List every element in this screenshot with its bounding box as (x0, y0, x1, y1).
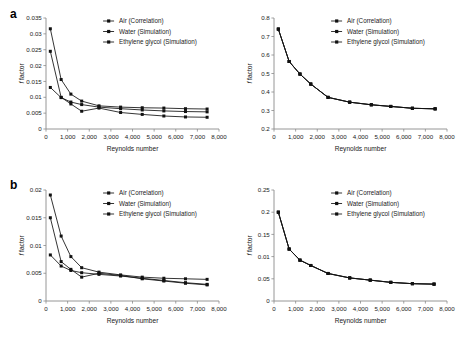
data-point (80, 266, 83, 269)
svg-text:8,000: 8,000 (439, 133, 455, 140)
legend-label: Air (Correlation) (347, 17, 391, 25)
data-point (184, 107, 187, 110)
svg-text:0.005: 0.005 (26, 109, 42, 116)
svg-text:0.8: 0.8 (261, 14, 270, 21)
legend-label: Air (Correlation) (119, 189, 163, 197)
series-panel-b-right-1 (277, 211, 436, 286)
data-point (348, 276, 351, 279)
svg-text:0.05: 0.05 (258, 275, 271, 282)
data-point (69, 255, 72, 258)
svg-text:6,000: 6,000 (396, 133, 412, 140)
series-panel-b-right-2 (277, 211, 436, 286)
x-axis-title-panel-a-right: Reynolds number (335, 145, 387, 153)
data-point (206, 108, 209, 111)
svg-text:6,000: 6,000 (168, 305, 184, 312)
data-point (288, 248, 291, 251)
data-point (49, 253, 52, 256)
data-point (60, 235, 63, 238)
data-point (69, 93, 72, 96)
svg-text:0.02: 0.02 (30, 62, 43, 69)
legend-marker-square (107, 212, 110, 215)
data-point (327, 272, 330, 275)
data-point (49, 27, 52, 30)
data-point (370, 103, 373, 106)
data-point (309, 83, 312, 86)
x-axis-title-panel-b-left: Reynolds number (107, 317, 159, 325)
svg-text:0.035: 0.035 (26, 14, 42, 21)
svg-text:6,000: 6,000 (168, 133, 184, 140)
svg-text:1,000: 1,000 (60, 133, 76, 140)
data-point (298, 73, 301, 76)
data-point (327, 96, 330, 99)
svg-text:7,000: 7,000 (418, 133, 434, 140)
data-point (60, 265, 63, 268)
x-axis-ticks-panel-b-right: 01,0002,0003,0004,0005,0006,0007,0008,00… (272, 301, 455, 312)
data-point (141, 276, 144, 279)
svg-text:4,000: 4,000 (353, 133, 369, 140)
svg-text:0: 0 (38, 297, 42, 304)
data-point (389, 281, 392, 284)
legend-marker-square (335, 40, 338, 43)
data-point (206, 116, 209, 119)
legend-marker-square (107, 202, 110, 205)
data-point (298, 259, 301, 262)
svg-text:5,000: 5,000 (374, 133, 390, 140)
data-point (49, 216, 52, 219)
panel-b: b 00.0050.010.0150.0201,0002,0003,0004,0… (0, 172, 459, 345)
x-axis-title-panel-b-right: Reynolds number (335, 317, 387, 325)
data-point (206, 110, 209, 113)
chart-panel-b-left: 00.0050.010.0150.0201,0002,0003,0004,000… (8, 172, 231, 345)
svg-text:5,000: 5,000 (374, 305, 390, 312)
data-point (60, 96, 63, 99)
legend-label: Ethylene glycol (Simulation) (347, 210, 425, 218)
svg-text:0.01: 0.01 (30, 93, 43, 100)
legend-label: Air (Correlation) (119, 17, 163, 25)
legend-marker-square (107, 191, 110, 194)
legend-label: Water (Simulation) (119, 200, 171, 208)
data-point (162, 277, 165, 280)
svg-text:0.015: 0.015 (26, 78, 42, 85)
y-axis-title-panel-b-right: f factor (246, 235, 253, 256)
data-point (80, 103, 83, 106)
chart-panel-a-left: 00.0050.010.0150.020.0250.030.03501,0002… (8, 0, 231, 173)
chart-svg-panel-a-right: 0.20.30.40.50.60.70.801,0002,0003,0004,0… (236, 0, 459, 173)
svg-text:0.01: 0.01 (30, 242, 43, 249)
svg-text:8,000: 8,000 (439, 305, 455, 312)
data-point (277, 28, 280, 31)
svg-text:0.7: 0.7 (261, 33, 270, 40)
svg-text:0: 0 (266, 297, 270, 304)
data-point (184, 277, 187, 280)
legend-label: Ethylene glycol (Simulation) (119, 38, 197, 46)
svg-text:4,000: 4,000 (125, 133, 141, 140)
data-point (348, 101, 351, 104)
data-point (184, 115, 187, 118)
data-point (69, 268, 72, 271)
x-axis-ticks-panel-a-right: 01,0002,0003,0004,0005,0006,0007,0008,00… (272, 129, 455, 140)
svg-text:0.005: 0.005 (26, 269, 42, 276)
legend-marker-square (335, 19, 338, 22)
figure-container: a 00.0050.010.0150.020.0250.030.03501,00… (0, 0, 459, 347)
data-point (411, 107, 414, 110)
legend-panel-a-left: Air (Correlation)Water (Simulation)Ethyl… (103, 17, 197, 46)
data-point (309, 264, 312, 267)
svg-text:2,000: 2,000 (310, 133, 326, 140)
data-point (119, 111, 122, 114)
y-axis-title-panel-a-left: f factor (18, 63, 25, 84)
svg-text:0: 0 (272, 305, 276, 312)
chart-svg-panel-b-right: 00.050.010.150.20.2501,0002,0003,0004,00… (236, 172, 459, 345)
legend-marker-square (335, 191, 338, 194)
svg-text:0.01: 0.01 (258, 253, 271, 260)
legend-panel-b-left: Air (Correlation)Water (Simulation)Ethyl… (103, 189, 197, 218)
legend-marker-square (335, 202, 338, 205)
svg-text:2,000: 2,000 (310, 305, 326, 312)
svg-text:3,000: 3,000 (331, 305, 347, 312)
legend-label: Ethylene glycol (Simulation) (347, 38, 425, 46)
svg-text:6,000: 6,000 (396, 305, 412, 312)
data-point (434, 107, 437, 110)
svg-text:7,000: 7,000 (190, 133, 206, 140)
y-axis-title-panel-b-left: f factor (18, 235, 25, 256)
data-point (80, 276, 83, 279)
svg-text:0.4: 0.4 (261, 88, 270, 95)
legend-marker-square (107, 19, 110, 22)
svg-text:4,000: 4,000 (125, 305, 141, 312)
